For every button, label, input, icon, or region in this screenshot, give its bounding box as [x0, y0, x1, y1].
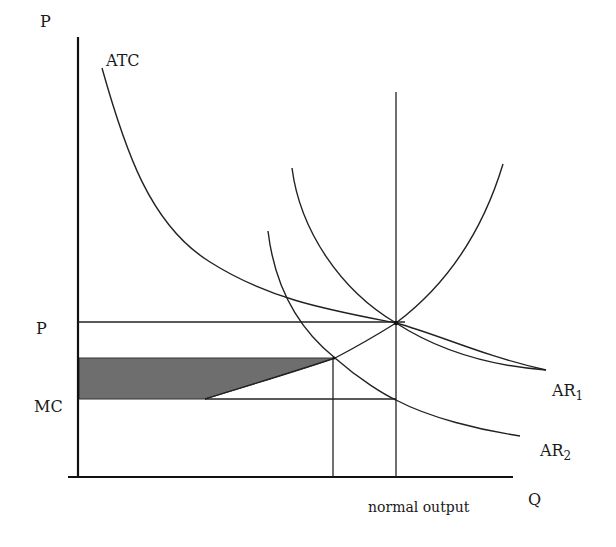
mc-label: MC — [34, 397, 63, 416]
x-axis-label: Q — [528, 490, 541, 509]
ar1-label: AR1 — [551, 381, 583, 403]
economics-diagram: P ATC P MC AR1 AR2 Q normal output — [0, 0, 616, 547]
y-axis-label: P — [40, 12, 51, 31]
atc-label: ATC — [105, 51, 140, 70]
equilibrium-point — [394, 321, 398, 325]
ar1-label-sub: 1 — [576, 389, 584, 403]
ar2-mc-intersection — [332, 356, 335, 359]
ar2-label: AR2 — [539, 441, 571, 463]
normal-output-label: normal output — [368, 499, 470, 515]
price-label: P — [36, 319, 47, 338]
ar1-label-main: AR — [551, 381, 577, 400]
ar2-label-sub: 2 — [564, 449, 572, 463]
ar2-curve — [268, 231, 520, 436]
shaded-area — [79, 358, 335, 399]
ar1-curve — [292, 168, 546, 370]
ar2-label-main: AR — [539, 441, 565, 460]
atc-curve — [102, 68, 546, 370]
